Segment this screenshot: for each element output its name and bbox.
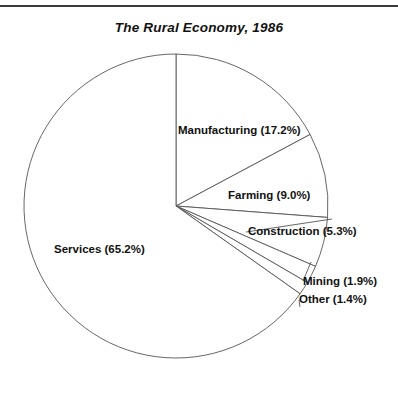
pie-chart-graphic	[0, 0, 398, 395]
slice-label-manufacturing: Manufacturing (17.2%)	[178, 124, 301, 137]
slice-label-mining: Mining (1.9%)	[303, 275, 377, 288]
slice-label-services: Services (65.2%)	[54, 243, 145, 256]
pie-slices-group	[24, 54, 328, 358]
slice-label-farming: Farming (9.0%)	[228, 189, 310, 202]
slice-label-construction: Construction (5.3%)	[248, 225, 357, 238]
pie-chart-figure: The Rural Economy, 1986 Manufacturing (1…	[0, 0, 398, 395]
slice-label-other: Other (1.4%)	[299, 293, 367, 306]
